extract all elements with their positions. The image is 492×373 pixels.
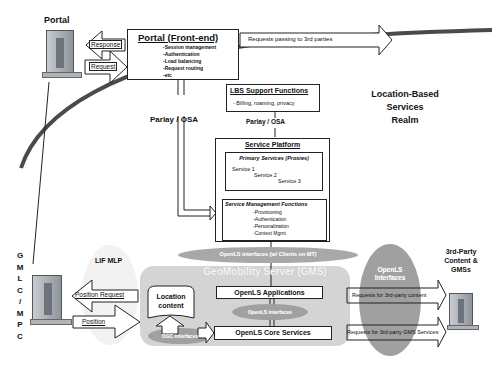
- third-party-interfaces-label: OpenLS Interfaces: [362, 266, 418, 282]
- realm-line: Services: [360, 101, 450, 114]
- primary-services-title: Primary Services (Proxies): [226, 155, 322, 161]
- third-party-title: 3rd-Party Content & GMSs: [430, 247, 492, 274]
- parlay-osa-left: Parlay / OSA: [150, 115, 198, 124]
- interfaces-line: Interfaces: [362, 274, 418, 282]
- location-content-line: content: [148, 301, 194, 310]
- management-item: -Provisioning: [253, 209, 289, 216]
- gmlc-letter: M: [14, 308, 26, 320]
- realm-line: Location-Based: [360, 88, 450, 101]
- openls-mt-label: OpenLS interfaces (w/ Clients on MT): [180, 251, 356, 257]
- frontend-item: -Authentication: [163, 51, 216, 58]
- response-label: Response: [89, 40, 122, 49]
- lif-mlp-label: LIF MLP: [95, 257, 122, 264]
- openls-applications-box: OpenLS Applications: [216, 286, 323, 299]
- frontend-item: -Session management: [163, 44, 216, 51]
- realm-line: Realm: [360, 114, 450, 127]
- frontend-item: -Load balancing: [163, 58, 216, 65]
- gmlc-letter: G: [14, 250, 26, 262]
- gmlc-server-icon: [30, 275, 72, 327]
- third-party-title-line: 3rd-Party: [430, 247, 492, 256]
- gmlc-letter: C: [14, 331, 26, 343]
- lbs-support-items: - Billing, roaming, privacy: [233, 100, 294, 106]
- gmlc-mpc-label: G M L C / M P C: [14, 250, 26, 342]
- frontend-item: -Request routing: [163, 65, 216, 72]
- openls-core-box: OpenLS Core Services: [214, 326, 332, 340]
- management-item: -Personalization: [253, 223, 289, 230]
- interfaces-line: OpenLS: [362, 266, 418, 274]
- third-party-title-line: Content &: [430, 256, 492, 265]
- ogc-interfaces-label: OGC interfaces: [150, 333, 210, 339]
- portal-frontend-box: Portal (Front-end) -Session management -…: [127, 29, 239, 80]
- service-platform-title: Service Platform: [216, 141, 329, 148]
- location-content: Location content: [148, 292, 194, 310]
- third-party-content-request: Requests for 3rd-party content: [352, 292, 426, 298]
- third-party-gms-request: Requests for 3rd-party GMS Services: [347, 329, 438, 335]
- portal-title: Portal: [44, 15, 70, 25]
- service-1: Service 1: [232, 166, 255, 172]
- management-item: -Context Mgmt: [253, 230, 289, 237]
- gms-title: GeoMobility Server (GMS): [180, 266, 350, 277]
- third-party-title-line: GMSs: [430, 265, 492, 274]
- parlay-osa-center: Parlay / OSA: [246, 118, 285, 125]
- gmlc-letter: L: [14, 273, 26, 285]
- portal-frontend-title: Portal (Front-end): [138, 32, 218, 43]
- lbs-support-box: LBS Support Functions - Billing, roaming…: [226, 84, 320, 112]
- position-request-label: Position Request: [75, 291, 124, 298]
- gmlc-letter: C: [14, 285, 26, 297]
- requests-passing-label: Requests passing to 3rd parties: [248, 36, 332, 42]
- gmlc-letter: M: [14, 262, 26, 274]
- service-management-title: Service Management Functions: [225, 201, 308, 207]
- service-management-box: Service Management Functions -Provisioni…: [222, 199, 327, 241]
- position-label: Position: [82, 318, 105, 325]
- location-content-line: Location: [148, 292, 194, 301]
- third-party-server-icon: [447, 293, 479, 333]
- service-3: Service 3: [278, 178, 301, 184]
- service-2: Service 2: [254, 172, 277, 178]
- gmlc-letter: P: [14, 319, 26, 331]
- request-label: Request: [89, 62, 117, 71]
- management-item: -Authentication: [253, 216, 289, 223]
- gmlc-letter: /: [14, 296, 26, 308]
- lbs-support-title: LBS Support Functions: [230, 87, 308, 94]
- frontend-item: -etc: [163, 72, 216, 79]
- openls-interfaces-label: OpenLS interfaces: [232, 309, 308, 315]
- realm-label: Location-Based Services Realm: [360, 88, 450, 127]
- portal-server-icon: [42, 30, 82, 80]
